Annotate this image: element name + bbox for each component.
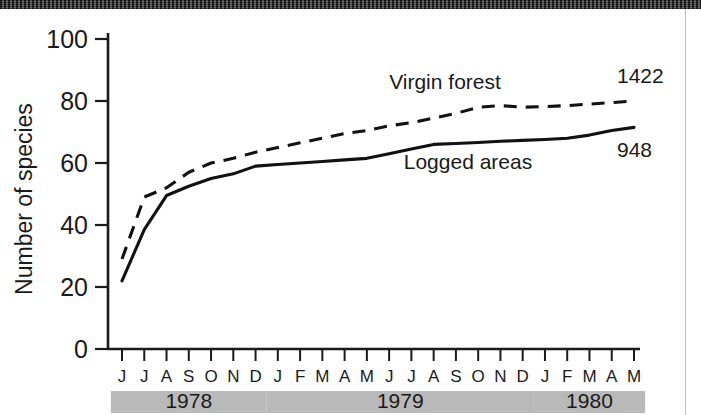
x-tick-label-2: A (161, 367, 173, 386)
x-tick-label-5: N (227, 367, 239, 386)
x-tick-label-23: M (627, 367, 641, 386)
x-tick-label-20: F (562, 367, 572, 386)
x-tick-label-17: N (494, 367, 506, 386)
endpoint-label-logged-areas: 948 (617, 138, 652, 161)
y-axis-title-text: Number of species (11, 103, 37, 295)
year-band-label-1979: 1979 (377, 389, 424, 412)
x-tick-label-14: A (428, 367, 440, 386)
x-tick-label-6: D (249, 367, 261, 386)
x-tick-group (122, 349, 634, 361)
endpoint-label-virgin-forest: 1422 (617, 64, 664, 87)
x-tick-label-16: O (472, 367, 485, 386)
y-axis: 020406080100 (46, 25, 108, 363)
year-band-label-1980: 1980 (566, 389, 613, 412)
x-tick-label-10: A (339, 367, 351, 386)
x-tick-label-18: D (517, 367, 529, 386)
x-axis: JJASONDJFMAMJJASONDJFMAM (108, 349, 641, 386)
x-tick-label-22: A (606, 367, 618, 386)
x-tick-label-1: J (140, 367, 149, 386)
y-tick-label-0: 0 (74, 335, 88, 363)
series-label-logged-areas: Logged areas (404, 150, 532, 173)
x-tick-label-12: J (385, 367, 394, 386)
x-tick-label-0: J (118, 367, 127, 386)
y-tick-label-100: 100 (46, 25, 88, 53)
year-band-label-1978: 1978 (165, 389, 212, 412)
x-tick-label-group: JJASONDJFMAMJJASONDJFMAM (118, 367, 641, 386)
y-tick-label-80: 80 (60, 87, 88, 115)
x-tick-label-11: M (360, 367, 374, 386)
species-accumulation-line-chart: Number of species 020406080100 JJASONDJF… (0, 9, 683, 415)
x-tick-label-4: O (204, 367, 217, 386)
chart-figure: Number of species 020406080100 JJASONDJF… (0, 9, 683, 415)
x-tick-label-15: S (450, 367, 461, 386)
x-tick-label-13: J (407, 367, 416, 386)
y-axis-title: Number of species (11, 103, 37, 295)
y-tick-label-20: 20 (60, 273, 88, 301)
x-tick-label-3: S (183, 367, 194, 386)
plot-area (122, 101, 634, 281)
y-tick-label-40: 40 (60, 211, 88, 239)
year-band-group: 197819791980 (111, 389, 645, 413)
y-tick-group: 020406080100 (46, 25, 108, 363)
scan-artifact-top-bar (0, 0, 701, 9)
series-label-virgin-forest: Virgin forest (389, 70, 501, 93)
series-annotations: Virgin forest Logged areas 1422 948 (389, 64, 664, 173)
series-line-virgin-forest (122, 101, 634, 259)
x-tick-label-8: F (295, 367, 305, 386)
x-tick-label-7: J (274, 367, 283, 386)
x-tick-label-9: M (315, 367, 329, 386)
y-tick-label-60: 60 (60, 149, 88, 177)
scan-artifact-right-border-inner (685, 9, 686, 415)
x-tick-label-21: M (582, 367, 596, 386)
x-tick-label-19: J (541, 367, 550, 386)
series-line-logged-areas (122, 127, 634, 280)
